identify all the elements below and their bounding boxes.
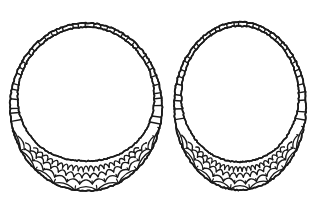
scale-joint bbox=[276, 162, 277, 163]
scale-joint bbox=[187, 148, 188, 149]
scale-joint bbox=[291, 147, 292, 148]
scale-joint bbox=[104, 179, 105, 182]
scale-joint bbox=[153, 136, 154, 137]
scale-joint bbox=[282, 156, 283, 157]
scale-joint bbox=[230, 185, 231, 189]
scale-joint bbox=[24, 149, 25, 150]
scale-joint bbox=[223, 179, 224, 181]
scale-joint bbox=[134, 157, 135, 158]
scale-joint bbox=[297, 135, 298, 136]
coil-stitch-tick bbox=[10, 113, 19, 114]
scale-joint bbox=[256, 179, 257, 182]
figure-canvas bbox=[0, 0, 310, 210]
coil-stitch-tick bbox=[297, 111, 306, 112]
line-drawing-svg bbox=[0, 0, 310, 210]
scale-joint bbox=[145, 148, 147, 149]
scale-joint bbox=[120, 167, 121, 168]
scale-joint bbox=[67, 179, 68, 182]
scale-joint bbox=[127, 162, 128, 163]
scale-joint bbox=[43, 163, 44, 164]
